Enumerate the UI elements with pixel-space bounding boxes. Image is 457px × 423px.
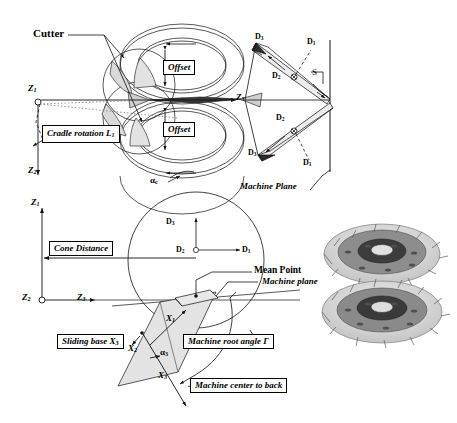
d1-label-lower: D1 (303, 159, 312, 168)
sliding-base-box: Sliding base X3 (57, 334, 124, 349)
d1-lower-dashed (296, 134, 309, 160)
d1-label-upper: D1 (307, 38, 316, 47)
mean-point-label: Mean Point (254, 266, 301, 276)
x1-axis-label: X1 (166, 314, 175, 323)
machine-center-to-back-box: Machine center to back (190, 378, 287, 393)
z1-axis-label: Z1 (28, 84, 37, 93)
z3-axis-label-bottom: Z3 (77, 293, 86, 302)
cone-distance-box: Cone Distance (49, 241, 113, 256)
cutter-label: Cutter (33, 28, 64, 39)
cradle-rotation-box: Cradle rotation L1 (42, 125, 120, 143)
d1-label-bottom: D1 (242, 246, 251, 255)
upper-gear (324, 224, 448, 290)
offset-box-lower: Offset (163, 122, 195, 137)
d3-label-bottom: D3 (166, 218, 175, 227)
d2-label-bottom: D2 (176, 246, 185, 255)
z1-axis-label-bottom: Z1 (31, 198, 40, 207)
d2-label-upper: D2 (272, 72, 281, 81)
alpha3-label: α3 (160, 348, 168, 357)
machine-plane-label-top: Machine Plane (240, 182, 297, 191)
bottom-d-axes (193, 218, 240, 253)
machine-plane-leader (310, 170, 330, 190)
machine-plane-label-bottom: Machine plane (262, 277, 318, 286)
figure-canvas (0, 0, 457, 423)
lower-gear (322, 279, 450, 348)
gear-pair-photo (322, 224, 450, 348)
machine-root-angle-box: Machine root angle Γ (183, 334, 274, 349)
alpha-c-arc (170, 171, 194, 178)
alpha-c-label: αc (150, 176, 158, 185)
cutter-base-arc (120, 176, 244, 214)
d3-label-lower: D3 (248, 149, 257, 158)
x2-axis-label: X2 (128, 344, 137, 353)
z3-axis-label: Z3 (236, 93, 245, 102)
bottom-leader-lines (188, 272, 258, 388)
z2-axis-label: Z2 (28, 166, 37, 175)
offset-box-upper: Offset (163, 60, 195, 75)
alpha-c-pointer (168, 176, 180, 182)
upper-blade (252, 43, 330, 104)
z2-axis-label-bottom: Z2 (22, 293, 31, 302)
s-point-label: S (312, 68, 317, 77)
d1-upper-dashed (296, 50, 311, 74)
d2-label-lower: D2 (276, 114, 285, 123)
d3-label-upper: D3 (255, 33, 264, 42)
x3-axis-label: X3 (158, 371, 167, 380)
